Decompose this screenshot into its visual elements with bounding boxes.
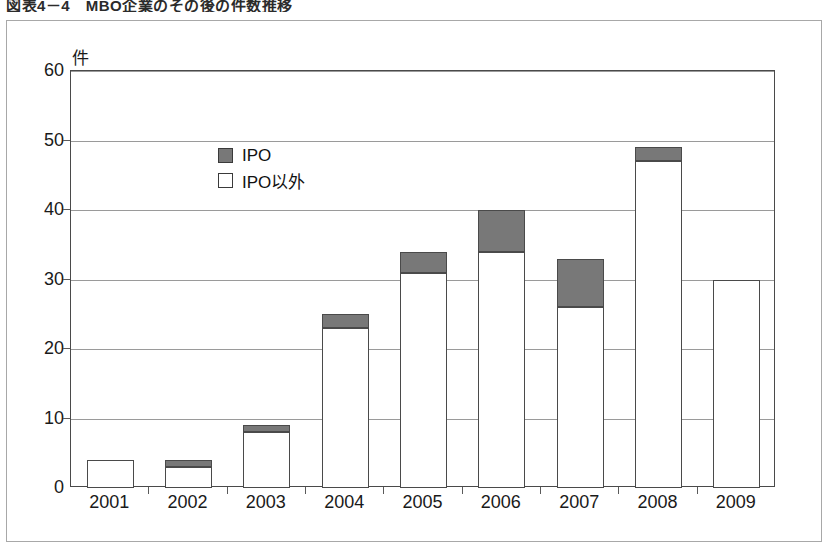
y-axis-tick-labels: 0102030405060 [8, 0, 64, 551]
y-axis-tick-label: 30 [12, 268, 64, 289]
bar-2006 [478, 210, 525, 488]
y-axis-unit-label: 件 [72, 44, 89, 69]
bar-2009 [713, 280, 760, 489]
x-axis-tick-label-2002: 2002 [167, 492, 207, 513]
x-axis-tick-label-2007: 2007 [559, 492, 599, 513]
bar-segment-other [400, 273, 447, 488]
legend-swatch-ipo [218, 148, 233, 163]
x-axis-tick-mark [383, 487, 384, 494]
bar-segment-ipo [243, 425, 290, 432]
legend-swatch-other [218, 173, 233, 188]
x-axis-tick-label-2009: 2009 [716, 492, 756, 513]
bar-segment-ipo [635, 147, 682, 161]
y-axis-tick-mark [63, 348, 70, 349]
gridline [71, 141, 774, 142]
y-axis-tick-mark [63, 140, 70, 141]
y-axis-tick-label: 20 [12, 338, 64, 359]
y-axis-tick-label: 0 [12, 477, 64, 498]
plot-area [70, 70, 775, 487]
bar-segment-ipo [478, 210, 525, 252]
bar-segment-other [243, 432, 290, 488]
bar-segment-other [165, 467, 212, 488]
y-axis-tick-label: 10 [12, 407, 64, 428]
x-axis-tick-mark [618, 487, 619, 494]
x-axis-tick-mark [305, 487, 306, 494]
y-axis-tick-label: 40 [12, 199, 64, 220]
x-axis-tick-label-2008: 2008 [637, 492, 677, 513]
y-axis-tick-mark [63, 209, 70, 210]
bar-2002 [165, 460, 212, 488]
x-axis-tick-mark [697, 487, 698, 494]
x-axis-tick-mark [540, 487, 541, 494]
bar-2001 [87, 460, 134, 488]
bar-segment-other [322, 328, 369, 488]
bar-segment-other [635, 161, 682, 488]
gridline [71, 71, 774, 72]
bar-segment-other [87, 460, 134, 488]
x-axis-tick-label-2003: 2003 [246, 492, 286, 513]
legend-item: IPO [218, 143, 305, 168]
y-axis-tick-mark [63, 418, 70, 419]
chart-legend: IPOIPO以外 [218, 143, 305, 193]
bar-segment-ipo [557, 259, 604, 308]
legend-label: IPO [242, 146, 271, 166]
x-axis-tick-mark [462, 487, 463, 494]
bar-segment-other [713, 280, 760, 489]
bar-2004 [322, 314, 369, 488]
bar-segment-ipo [400, 252, 447, 273]
chart-page: 図表4－4 MBO企業のその後の件数推移 件 0102030405060 200… [0, 0, 830, 551]
bar-segment-other [478, 252, 525, 488]
bar-2003 [243, 425, 290, 488]
bar-2005 [400, 252, 447, 488]
y-axis-tick-label: 60 [12, 60, 64, 81]
x-axis-tick-label-2001: 2001 [89, 492, 129, 513]
legend-label: IPO以外 [242, 168, 305, 193]
x-axis-tick-label-2005: 2005 [402, 492, 442, 513]
x-axis-tick-label-2004: 2004 [324, 492, 364, 513]
x-axis-tick-mark [148, 487, 149, 494]
bar-segment-other [557, 307, 604, 488]
x-axis-tick-label-2006: 2006 [481, 492, 521, 513]
y-axis-tick-mark [63, 279, 70, 280]
legend-item: IPO以外 [218, 168, 305, 193]
x-axis-tick-mark [227, 487, 228, 494]
bar-segment-ipo [165, 460, 212, 467]
bar-2007 [557, 259, 604, 488]
bar-2008 [635, 147, 682, 488]
bar-segment-ipo [322, 314, 369, 328]
y-axis-tick-label: 50 [12, 129, 64, 150]
